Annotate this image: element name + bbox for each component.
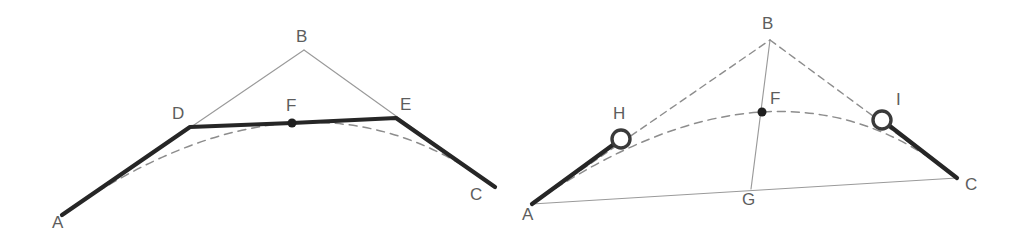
point-label-F: F	[286, 96, 297, 115]
figure-canvas: ADBFEC AHBFIGC	[0, 0, 1021, 240]
point-label-A: A	[522, 205, 534, 224]
point-label-E: E	[400, 95, 412, 114]
point-label-G: G	[742, 190, 756, 209]
point-marker-F	[758, 108, 767, 117]
left-markers	[288, 119, 297, 128]
point-label-H: H	[613, 104, 626, 123]
right-panel: AHBFIGC	[522, 14, 978, 224]
right-dashed-segments	[532, 40, 957, 204]
point-label-F: F	[770, 89, 781, 108]
point-label-D: D	[172, 104, 185, 123]
right-thin-segments	[532, 40, 957, 204]
point-label-I: I	[896, 90, 901, 109]
geometry-figure: ADBFEC AHBFIGC	[0, 0, 1021, 240]
point-label-B: B	[296, 27, 308, 46]
point-marker-F	[288, 119, 297, 128]
heavy-segment-I-C	[882, 120, 957, 178]
point-marker-H	[612, 130, 630, 148]
point-label-C: C	[965, 175, 978, 194]
left-thin-segments	[62, 50, 495, 215]
point-label-A: A	[52, 213, 64, 232]
polyline-A-D-F-E-C	[62, 118, 495, 215]
point-label-C: C	[470, 185, 483, 204]
point-label-B: B	[762, 14, 774, 33]
point-marker-I	[873, 111, 891, 129]
right-point-labels: AHBFIGC	[522, 14, 978, 224]
heavy-segment-A-H	[532, 139, 621, 204]
left-point-labels: ADBFEC	[52, 27, 483, 232]
left-panel: ADBFEC	[52, 27, 495, 232]
